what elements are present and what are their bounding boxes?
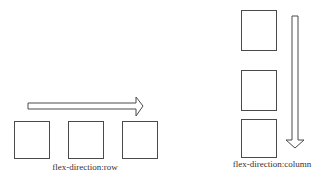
column-label: flex-direction:column <box>233 159 311 169</box>
flex-direction-diagram <box>0 0 320 185</box>
row-box-3 <box>123 122 158 159</box>
column-box-2 <box>242 71 277 111</box>
column-group <box>242 11 305 158</box>
row-label: flex-direction:row <box>52 162 117 172</box>
column-box-3 <box>242 120 277 158</box>
row-box-2 <box>69 122 104 159</box>
column-box-1 <box>242 11 277 51</box>
right-arrow-icon <box>28 97 143 116</box>
down-arrow-icon <box>286 16 304 148</box>
row-box-1 <box>15 122 50 159</box>
row-group <box>15 97 158 159</box>
